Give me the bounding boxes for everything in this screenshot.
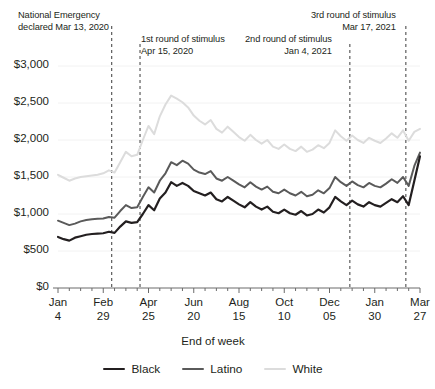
x-tick-month: Jan: [353, 296, 397, 310]
x-tick-month: Oct: [262, 296, 306, 310]
annotation-title: 1st round of stimulus: [141, 34, 225, 46]
x-tick-month: Jun: [172, 296, 216, 310]
x-axis-tick-label: Apr25: [127, 296, 171, 323]
legend-item-white[interactable]: White: [264, 362, 322, 376]
legend-item-black[interactable]: Black: [103, 362, 160, 376]
axis-lines-group: [53, 288, 420, 293]
annotation-title: National Emergency: [18, 10, 109, 22]
legend-swatch-icon: [103, 368, 125, 371]
series-lines-group: [58, 96, 420, 241]
y-axis-tick-label: $3,000: [0, 58, 49, 70]
y-axis-tick-label: $2,000: [0, 132, 49, 144]
x-axis-tick-label: Dec05: [308, 296, 352, 323]
x-axis-tick-label: Feb29: [81, 296, 125, 323]
x-axis-tick-label: Mar27: [398, 296, 435, 323]
legend-label: Black: [131, 362, 160, 376]
x-axis-tick-label: Jan30: [353, 296, 397, 323]
annotation-date: Mar 17, 2021: [311, 22, 396, 34]
x-tick-day: 4: [36, 310, 80, 324]
x-tick-month: Jan: [36, 296, 80, 310]
y-axis-tick-label: $1,500: [0, 169, 49, 181]
series-line-white: [58, 96, 420, 181]
x-tick-day: 29: [81, 310, 125, 324]
legend-swatch-icon: [264, 368, 286, 371]
x-tick-day: 27: [398, 310, 435, 324]
legend-label: White: [292, 362, 322, 376]
event-annotation-national-emergency: National Emergencydeclared Mar 13, 2020: [18, 10, 109, 33]
event-annotation-third-stimulus: 3rd round of stimulusMar 17, 2021: [311, 10, 396, 33]
event-marker-lines-group: [112, 26, 406, 288]
annotation-date: Apr 15, 2020: [141, 46, 225, 58]
x-axis-tick-label: Aug15: [217, 296, 261, 323]
annotation-title: 3rd round of stimulus: [311, 10, 396, 22]
x-tick-month: Apr: [127, 296, 171, 310]
event-annotation-first-stimulus: 1st round of stimulusApr 15, 2020: [141, 34, 225, 57]
legend-label: Latino: [210, 362, 242, 376]
legend-swatch-icon: [182, 368, 204, 371]
x-tick-month: Feb: [81, 296, 125, 310]
annotation-title: 2nd round of stimulus: [245, 34, 332, 46]
x-tick-month: Mar: [398, 296, 435, 310]
x-tick-month: Aug: [217, 296, 261, 310]
x-tick-day: 05: [308, 310, 352, 324]
annotation-date: declared Mar 13, 2020: [18, 22, 109, 34]
series-line-black: [58, 156, 420, 240]
x-tick-day: 30: [353, 310, 397, 324]
x-tick-day: 10: [262, 310, 306, 324]
axis-ticks-group: [58, 66, 420, 251]
x-tick-day: 15: [217, 310, 261, 324]
x-tick-day: 25: [127, 310, 171, 324]
y-axis-tick-label: $0: [0, 280, 49, 292]
y-axis-tick-label: $2,500: [0, 95, 49, 107]
annotation-date: Jan 4, 2021: [245, 46, 332, 58]
chart-legend: BlackLatinoWhite: [0, 362, 426, 376]
event-annotation-second-stimulus: 2nd round of stimulusJan 4, 2021: [245, 34, 332, 57]
x-axis-tick-label: Jan4: [36, 296, 80, 323]
x-axis-tick-label: Jun20: [172, 296, 216, 323]
x-axis-title: End of week: [0, 335, 426, 347]
y-axis-tick-label: $500: [0, 243, 49, 255]
legend-item-latino[interactable]: Latino: [182, 362, 242, 376]
x-axis-tick-label: Oct10: [262, 296, 306, 323]
x-tick-day: 20: [172, 310, 216, 324]
y-axis-tick-label: $1,000: [0, 206, 49, 218]
x-tick-month: Dec: [308, 296, 352, 310]
